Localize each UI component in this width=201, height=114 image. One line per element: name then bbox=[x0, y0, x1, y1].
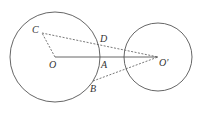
label-o: O bbox=[49, 59, 56, 70]
label-a: A bbox=[100, 59, 108, 70]
label-d: D bbox=[99, 33, 108, 44]
label-c: C bbox=[32, 24, 39, 35]
label-b: B bbox=[90, 83, 96, 94]
label-o-prime: O′ bbox=[159, 57, 169, 68]
geometry-diagram: C D O A O′ B bbox=[0, 0, 201, 114]
segment-o-c bbox=[42, 33, 55, 57]
